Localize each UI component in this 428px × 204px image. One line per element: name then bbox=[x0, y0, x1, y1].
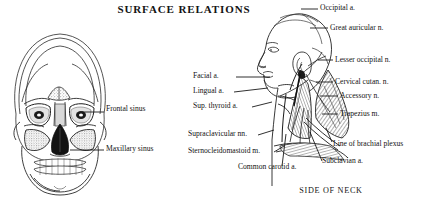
figure-caption: SIDE OF NECK bbox=[276, 186, 386, 195]
label-line-of-brachial-plexus: Line of brachial plexus bbox=[333, 140, 403, 149]
label-subclavian-a: Subclavian a. bbox=[322, 157, 363, 166]
anterior-skull-diagram bbox=[0, 6, 120, 204]
label-occipital-a: Occipital a. bbox=[320, 4, 355, 13]
label-common-carotid-a: Common carotid a. bbox=[238, 163, 296, 172]
label-cervical-cutan-n: Cervical cutan. n. bbox=[335, 78, 389, 87]
figure-page: SURFACE RELATIONS bbox=[0, 0, 428, 204]
label-maxillary-sinus: Maxillary sinus bbox=[106, 145, 153, 154]
skull-drawing bbox=[0, 6, 120, 204]
label-facial-a: Facial a. bbox=[193, 72, 219, 81]
label-frontal-sinus: Frontal sinus bbox=[106, 105, 145, 114]
label-accessory-n: Accessory n. bbox=[340, 92, 379, 101]
label-lesser-occipital-n: Lesser occipital n. bbox=[335, 56, 390, 65]
page-title: SURFACE RELATIONS bbox=[104, 3, 264, 15]
label-great-auricular-n: Great auricular n. bbox=[330, 24, 383, 33]
label-sternocleidomastoid-m: Sternocleidomastoid m. bbox=[188, 147, 260, 156]
label-trapezius-m: Trapezius m. bbox=[340, 110, 379, 119]
label-sup-thyroid-a: Sup. thyroid a. bbox=[193, 102, 238, 111]
label-lingual-a: Lingual a. bbox=[193, 87, 224, 96]
label-supraclavicular-nn: Supraclavicular nn. bbox=[188, 130, 247, 139]
